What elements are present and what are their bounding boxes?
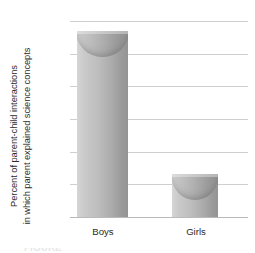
bar-girls	[172, 175, 218, 217]
y-axis-title-line-2: in which parent explained science concep…	[21, 48, 35, 225]
y-axis-title-line-1: Percent of parent-child interactions	[8, 48, 22, 225]
x-axis-label-girls: Girls	[156, 226, 236, 237]
clipped-caption-text: FIGURE	[24, 248, 98, 253]
clipped-caption: FIGURE	[24, 248, 98, 253]
x-axis-label-boys: Boys	[63, 226, 143, 237]
y-axis-title: Percent of parent-child interactions in …	[0, 21, 42, 251]
gridline	[70, 21, 248, 22]
bar-boys	[77, 32, 128, 217]
bar-top-rim	[172, 174, 218, 177]
plot-area: 051015202530	[70, 21, 248, 217]
bar-top-cylinder	[172, 174, 218, 200]
bar-top-rim	[77, 31, 128, 34]
axis-baseline	[70, 217, 248, 218]
bar-top-cylinder	[77, 31, 128, 57]
bar-chart-figure: Percent of parent-child interactions in …	[0, 0, 255, 253]
